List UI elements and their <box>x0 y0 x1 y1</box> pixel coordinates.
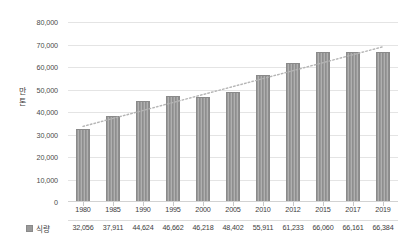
table-cell-year: 1985 <box>98 205 128 214</box>
table-cell-year: 2017 <box>338 205 368 214</box>
table-cell-value: 48,402 <box>218 223 248 232</box>
bar-slot <box>128 22 158 202</box>
table-cell-value: 66,161 <box>338 223 368 232</box>
bar <box>316 52 330 202</box>
bar-slot <box>188 22 218 202</box>
bar-slot <box>308 22 338 202</box>
table-cell-year: 1995 <box>158 205 188 214</box>
table-cell-year: 2015 <box>308 205 338 214</box>
bar <box>346 52 360 202</box>
legend-label: 식량 <box>36 223 50 234</box>
chart-container: 만톤 80,000 70,000 60,000 50,000 40,000 30… <box>0 0 409 252</box>
y-tick-label: 40,000 <box>37 108 58 117</box>
bar-slot <box>278 22 308 202</box>
table-cell-value: 46,218 <box>188 223 218 232</box>
y-tick-label: 30,000 <box>37 130 58 139</box>
data-table: 1980198519901995200020052010201220152017… <box>0 205 409 252</box>
table-cell-value: 66,384 <box>368 223 398 232</box>
table-cell-year: 2019 <box>368 205 398 214</box>
bar <box>106 116 120 202</box>
y-tick-label: 80,000 <box>37 18 58 27</box>
table-cell-year: 2010 <box>248 205 278 214</box>
y-tick-label: 20,000 <box>37 153 58 162</box>
y-tick-label: 60,000 <box>37 63 58 72</box>
y-tick-label: 10,000 <box>37 175 58 184</box>
bar <box>376 52 390 202</box>
bar <box>76 129 90 202</box>
table-cell-year: 1980 <box>68 205 98 214</box>
table-cell-year: 2005 <box>218 205 248 214</box>
table-cell-year: 2000 <box>188 205 218 214</box>
y-tick-label: 70,000 <box>37 40 58 49</box>
table-cell-value: 61,233 <box>278 223 308 232</box>
bar-slot <box>158 22 188 202</box>
bar <box>136 101 150 202</box>
table-cell-value: 46,662 <box>158 223 188 232</box>
table-row-years: 1980198519901995200020052010201220152017… <box>68 205 398 214</box>
legend: 식량 <box>26 223 50 234</box>
y-axis-labels: 80,000 70,000 60,000 50,000 40,000 30,00… <box>0 22 62 202</box>
bar <box>226 92 240 202</box>
bar-slot <box>218 22 248 202</box>
bar <box>286 63 300 202</box>
table-row-values: 32,05637,91144,62446,66246,21848,40255,9… <box>68 223 398 232</box>
table-cell-value: 37,911 <box>98 223 128 232</box>
table-cell-value: 55,911 <box>248 223 278 232</box>
bar-slot <box>98 22 128 202</box>
bar <box>166 96 180 202</box>
y-tick-label: 50,000 <box>37 85 58 94</box>
table-cell-value: 32,056 <box>68 223 98 232</box>
table-cell-year: 1990 <box>128 205 158 214</box>
bar-series <box>68 22 398 202</box>
table-cell-year: 2012 <box>278 205 308 214</box>
bar-slot <box>248 22 278 202</box>
bar <box>256 75 270 202</box>
table-cell-value: 44,624 <box>128 223 158 232</box>
plot-area <box>68 22 398 202</box>
legend-swatch-icon <box>26 225 33 232</box>
table-divider <box>68 220 398 221</box>
table-cell-value: 66,060 <box>308 223 338 232</box>
bar-slot <box>68 22 98 202</box>
bar-slot <box>338 22 368 202</box>
bar <box>196 97 210 202</box>
bar-slot <box>368 22 398 202</box>
